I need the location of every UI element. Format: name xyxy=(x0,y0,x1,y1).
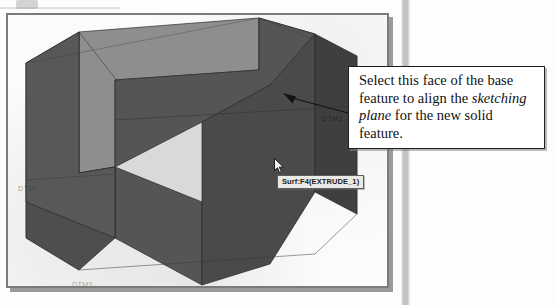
scan-artifact-line xyxy=(0,7,120,9)
scan-artifact-band xyxy=(401,0,410,305)
callout-line-3-text: for the new solid xyxy=(391,107,492,123)
callout-line-2: feature to align the sketching xyxy=(359,90,536,108)
callout-emphasis-sketching: sketching xyxy=(472,90,527,106)
figure-page: DTM1 DTM3 DTM2 Surf:F4(EXTRUDE_1) Select… xyxy=(0,0,555,305)
callout-line-3: plane for the new solid xyxy=(359,107,536,125)
cad-viewport[interactable]: DTM1 DTM3 xyxy=(6,13,389,288)
datum-label-dtm1[interactable]: DTM1 xyxy=(18,185,39,192)
callout-emphasis-plane: plane xyxy=(359,107,391,123)
callout-line-4: feature. xyxy=(359,125,536,143)
solid-model-graphic[interactable] xyxy=(6,13,389,288)
callout-box: Select this face of the base feature to … xyxy=(348,66,545,149)
callout-line-1: Select this face of the base xyxy=(359,72,536,90)
callout-line-2-text: feature to align the xyxy=(359,90,472,106)
arrow-pointer-icon xyxy=(274,158,285,174)
callout-leader-line xyxy=(280,88,355,118)
datum-label-dtm3[interactable]: DTM3 xyxy=(72,281,93,288)
selection-tooltip: Surf:F4(EXTRUDE_1) xyxy=(277,175,364,189)
